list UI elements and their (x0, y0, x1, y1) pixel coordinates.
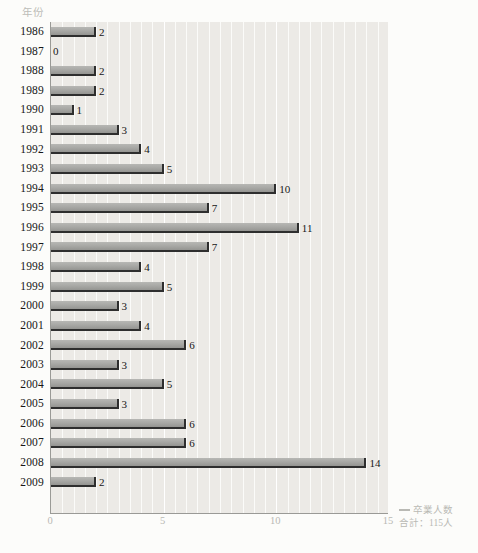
bar-value-label: 3 (122, 360, 128, 370)
bar (51, 262, 141, 272)
bar-value-label: 4 (144, 262, 150, 272)
legend-item-series: 卒業人数 (399, 504, 478, 516)
bar-value-label: 3 (122, 301, 128, 311)
legend-series-label: 卒業人数 (413, 504, 453, 516)
bar-value-label: 7 (212, 242, 218, 252)
bar-value-label: 10 (279, 184, 290, 194)
x-axis-tick-label: 0 (47, 515, 52, 526)
bar-container: 3 (51, 394, 127, 414)
bar (51, 379, 164, 389)
bar-row-category-label: 1992 (0, 140, 44, 160)
legend-swatch-icon (399, 509, 410, 511)
bar-row: 20076 (0, 433, 478, 453)
bar (51, 66, 96, 76)
bar-container: 2 (51, 61, 105, 81)
bar (51, 477, 96, 487)
bar-row-category-label: 1999 (0, 277, 44, 297)
bar-row-category-label: 1990 (0, 100, 44, 120)
bar (51, 458, 366, 468)
legend-total-label: 合計：115人 (399, 517, 478, 529)
bar-row: 20045 (0, 375, 478, 395)
bar-row-category-label: 1991 (0, 120, 44, 140)
bar-row: 19882 (0, 61, 478, 81)
bar (51, 321, 141, 331)
bar-container: 0 (51, 42, 59, 62)
bar-container: 2 (51, 81, 105, 101)
bar-row: 19901 (0, 100, 478, 120)
bar-row-category-label: 2001 (0, 316, 44, 336)
bar-row: 20053 (0, 394, 478, 414)
bar (51, 164, 164, 174)
y-axis-title: 年份 (22, 4, 43, 19)
bar-container: 5 (51, 375, 172, 395)
bar (51, 419, 186, 429)
bar-row-category-label: 1996 (0, 218, 44, 238)
bar-container: 6 (51, 336, 195, 356)
bar (51, 86, 96, 96)
bar-row-category-label: 2009 (0, 473, 44, 493)
bar-value-label: 4 (144, 321, 150, 331)
bar-row-category-label: 1989 (0, 81, 44, 101)
bar (51, 223, 299, 233)
bar-value-label: 2 (99, 66, 105, 76)
bar-value-label: 6 (189, 340, 195, 350)
bar-row: 19995 (0, 277, 478, 297)
bar-row-category-label: 1986 (0, 22, 44, 42)
bar-container: 6 (51, 433, 195, 453)
bar-row-category-label: 1994 (0, 179, 44, 199)
bar (51, 242, 209, 252)
bar-row: 20092 (0, 473, 478, 493)
bar-row: 199410 (0, 179, 478, 199)
bar-rows: 1986219870198821989219901199131992419935… (0, 22, 478, 514)
bar-container: 3 (51, 355, 127, 375)
bar-value-label: 2 (99, 86, 105, 96)
bar-row-category-label: 2002 (0, 336, 44, 356)
bar (51, 27, 96, 37)
bar (51, 105, 74, 115)
bar-value-label: 1 (77, 105, 83, 115)
bar (51, 144, 141, 154)
bar-container: 2 (51, 473, 105, 493)
bar-row: 20003 (0, 296, 478, 316)
bar-value-label: 2 (99, 27, 105, 37)
bar-row: 19924 (0, 140, 478, 160)
x-axis-tick-label: 5 (160, 515, 165, 526)
bar-row-category-label: 2008 (0, 453, 44, 473)
bar (51, 360, 119, 370)
bar-container: 3 (51, 296, 127, 316)
bar-container: 4 (51, 257, 150, 277)
bar-value-label: 11 (302, 223, 313, 233)
bar-row-category-label: 1995 (0, 198, 44, 218)
bar-chart: 年份 1986219870198821989219901199131992419… (0, 0, 478, 553)
bar-row-category-label: 1987 (0, 42, 44, 62)
bar-container: 4 (51, 316, 150, 336)
bar-row-category-label: 1997 (0, 238, 44, 258)
bar-container: 7 (51, 238, 217, 258)
bar-container: 4 (51, 140, 150, 160)
bar-row: 20026 (0, 336, 478, 356)
bar-container: 2 (51, 22, 105, 42)
bar (51, 301, 119, 311)
bar-container: 1 (51, 100, 82, 120)
bar-row-category-label: 2003 (0, 355, 44, 375)
bar-row: 19870 (0, 42, 478, 62)
bar-container: 14 (51, 453, 380, 473)
bar-value-label: 5 (167, 282, 173, 292)
bar-row-category-label: 2000 (0, 296, 44, 316)
bar-container: 6 (51, 414, 195, 434)
bar-row: 19862 (0, 22, 478, 42)
bar (51, 125, 119, 135)
bar-value-label: 6 (189, 438, 195, 448)
bar-container: 5 (51, 159, 172, 179)
bar (51, 282, 164, 292)
bar-value-label: 7 (212, 203, 218, 213)
bar-container: 3 (51, 120, 127, 140)
bar-row: 20033 (0, 355, 478, 375)
bar-row-category-label: 1998 (0, 257, 44, 277)
bar-row: 19913 (0, 120, 478, 140)
bar-value-label: 5 (167, 379, 173, 389)
bar-row: 20014 (0, 316, 478, 336)
bar-row-category-label: 1988 (0, 61, 44, 81)
bar-container: 10 (51, 179, 290, 199)
bar-value-label: 2 (99, 477, 105, 487)
